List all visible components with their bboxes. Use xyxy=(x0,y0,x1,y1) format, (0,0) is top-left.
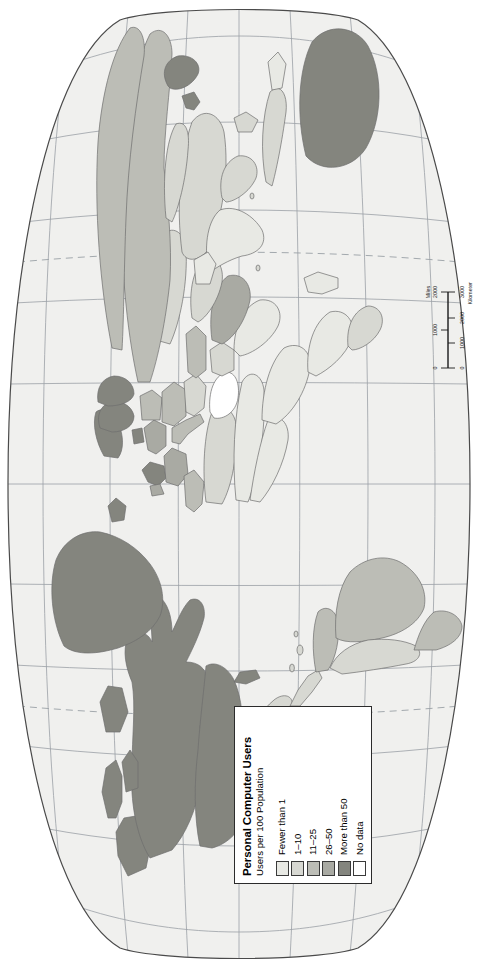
legend-subtitle: Users per 100 Population xyxy=(254,714,265,876)
region-australia xyxy=(300,29,379,167)
legend-swatch-26-50 xyxy=(322,861,335,876)
scale-km-tick-3000: 3000 xyxy=(459,286,465,298)
scale-miles-axis xyxy=(441,292,448,368)
legend-swatch-more-than-50 xyxy=(338,861,351,876)
scale-bar-svg: 0 1000 2000 Miles 0 1000 2000 3000 Kilom… xyxy=(412,282,478,376)
legend-label-1-10: 1–10 xyxy=(293,834,303,855)
legend-label-26-50: 26–50 xyxy=(324,828,334,855)
legend-label-fewer-than-1: Fewer than 1 xyxy=(277,799,287,855)
region-denmark xyxy=(132,428,144,444)
legend-swatch-11-25 xyxy=(307,861,320,876)
legend-label-more-than-50: More than 50 xyxy=(339,798,349,855)
legend-swatch-no-data xyxy=(353,861,366,876)
scale-miles-tick-1000: 1000 xyxy=(432,324,438,336)
legend-label-no-data: No data xyxy=(355,821,365,855)
scale-miles-tick-0: 0 xyxy=(432,366,438,369)
legend-swatch-1-10 xyxy=(291,861,304,876)
region-new-zealand xyxy=(368,8,396,26)
legend-title: Personal Computer Users xyxy=(241,714,253,876)
legend-item: 26–50 xyxy=(322,714,337,876)
map-legend: Personal Computer Users Users per 100 Po… xyxy=(234,706,372,884)
legend-item: More than 50 xyxy=(337,714,352,876)
scale-km-tick-0: 0 xyxy=(459,366,465,369)
legend-items: Fewer than 1 1–10 11–25 26–50 xyxy=(275,714,367,876)
scale-km-axis xyxy=(448,292,455,368)
legend-item: Fewer than 1 xyxy=(275,714,290,876)
scale-miles-tick-2000: 2000 xyxy=(432,286,438,298)
region-turkey xyxy=(186,326,206,378)
map-legend-inner: Personal Computer Users Users per 100 Po… xyxy=(234,706,372,884)
scale-miles-unit: Miles xyxy=(425,285,431,298)
scale-bar-inner: 0 1000 2000 Miles 0 1000 2000 3000 Kilom… xyxy=(412,282,478,376)
legend-swatch-fewer-than-1 xyxy=(276,861,289,876)
legend-item: 11–25 xyxy=(306,714,321,876)
scale-bar: 0 1000 2000 Miles 0 1000 2000 3000 Kilom… xyxy=(402,292,478,366)
scale-km-unit: Kilometers xyxy=(467,282,473,305)
map-page: 0 1000 2000 Miles 0 1000 2000 3000 Kilom… xyxy=(0,0,478,968)
scale-km-tick-1000: 1000 xyxy=(459,337,465,349)
legend-item: 1–10 xyxy=(291,714,306,876)
region-central-europe xyxy=(162,382,186,426)
legend-item: No data xyxy=(353,714,368,876)
scale-km-tick-2000: 2000 xyxy=(459,312,465,324)
legend-label-11-25: 11–25 xyxy=(308,829,318,855)
